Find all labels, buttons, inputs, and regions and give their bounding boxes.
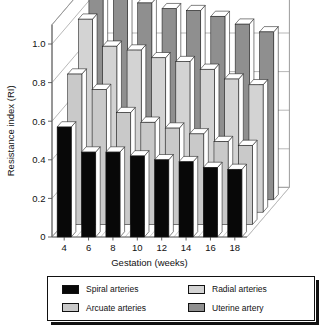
- bar-1-18: [228, 164, 247, 237]
- bar-1-10: [130, 151, 149, 237]
- x-tick-label: 16: [205, 242, 216, 253]
- x-tick-label: 12: [156, 242, 167, 253]
- y-tick-label: 1.0: [32, 38, 45, 49]
- bar-1-12: [155, 155, 174, 237]
- x-tick-label: 4: [62, 242, 67, 253]
- y-tick-label: 0: [40, 231, 45, 242]
- bar-1-8: [106, 147, 125, 237]
- x-tick-label: 6: [86, 242, 91, 253]
- bar-1-6: [81, 147, 100, 237]
- chart-figure: { "chart_data": { "type": "bar", "subtyp…: [0, 0, 333, 331]
- x-axis-title: Gestation (weeks): [111, 257, 188, 268]
- x-tick-label: 8: [110, 242, 115, 253]
- legend-item-uterine-artery: Uterine artery: [188, 303, 314, 313]
- chart-canvas: 00.20.40.60.81.0Resistance index (RI)468…: [0, 0, 333, 268]
- legend-item-radial-arteries: Radial arteries: [188, 284, 314, 294]
- legend-label-spiral-arteries: Spiral arteries: [86, 284, 138, 294]
- bar-1-4: [57, 122, 76, 237]
- legend-swatch-uterine-artery: [188, 303, 205, 312]
- bar-1-16: [203, 162, 222, 237]
- x-tick-label: 18: [230, 242, 241, 253]
- plot-area: 00.20.40.60.81.0Resistance index (RI)468…: [0, 0, 333, 268]
- x-tick-label: 10: [132, 242, 143, 253]
- legend-label-arcuate-arteries: Arcuate arteries: [86, 303, 146, 313]
- legend-swatch-arcuate-arteries: [62, 303, 79, 312]
- legend-label-uterine-artery: Uterine artery: [212, 303, 264, 313]
- legend-label-radial-arteries: Radial arteries: [212, 284, 267, 294]
- legend-item-arcuate-arteries: Arcuate arteries: [62, 303, 188, 313]
- y-tick-label: 0.2: [32, 193, 45, 204]
- bar-1-14: [179, 156, 198, 237]
- chart-legend: Spiral arteries Radial arteries Arcuate …: [47, 276, 315, 321]
- y-tick-label: 0.6: [32, 116, 45, 127]
- y-axis-title: Resistance index (RI): [5, 85, 16, 176]
- y-tick-label: 0.8: [32, 77, 45, 88]
- legend-item-spiral-arteries: Spiral arteries: [62, 284, 188, 294]
- x-tick-label: 14: [181, 242, 192, 253]
- legend-swatch-spiral-arteries: [62, 285, 79, 294]
- y-tick-label: 0.4: [32, 154, 45, 165]
- legend-swatch-radial-arteries: [188, 285, 205, 294]
